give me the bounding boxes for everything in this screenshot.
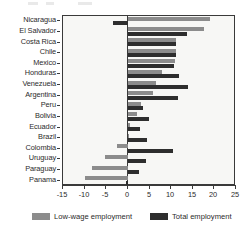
x-axis-tick (149, 185, 150, 189)
category-label: Honduras (25, 69, 56, 77)
bar-total-panama (126, 181, 128, 185)
bar-low-wage-ecuador (128, 123, 131, 127)
bar-total-colombia (128, 149, 173, 153)
bar-total-chile (128, 53, 176, 57)
y-axis-tick (57, 95, 60, 96)
y-axis-tick (57, 52, 60, 53)
y-axis-tick (57, 127, 60, 128)
category-label: Argentina (25, 91, 56, 99)
scan-artifact (0, 0, 251, 9)
category-label: Ecuador (29, 123, 56, 131)
x-axis-tick-label: 20 (209, 190, 217, 199)
bar-low-wage-bolivia (128, 112, 137, 116)
x-axis-tick-label: 0 (125, 190, 129, 199)
chart-legend: Low-wage employmentTotal employment (0, 210, 251, 224)
category-label: Paraguay (25, 165, 56, 173)
category-label: El Salvador (19, 27, 56, 35)
bar-low-wage-argentina (128, 91, 154, 95)
bar-total-mexico (128, 64, 174, 68)
bar-low-wage-venezuela (128, 81, 156, 85)
y-axis-tick (57, 116, 60, 117)
y-axis-tick (57, 105, 60, 106)
bar-low-wage-mexico (128, 59, 175, 63)
bar-low-wage-costa-rica (128, 38, 176, 42)
bar-total-costa-rica (128, 42, 176, 46)
category-label: Mexico (33, 59, 56, 67)
category-label: Peru (41, 101, 56, 109)
x-axis-tick (105, 185, 106, 189)
x-axis-tick (84, 185, 85, 189)
bar-total-venezuela (128, 85, 188, 89)
category-label: Nicaragua (23, 16, 56, 24)
x-axis-tick-label: -15 (57, 190, 68, 199)
legend-label: Total employment (172, 212, 232, 221)
x-axis-tick-label: 5 (147, 190, 151, 199)
x-axis-tick-label: -5 (102, 190, 109, 199)
bar-low-wage-paraguay (92, 166, 128, 170)
bar-low-wage-colombia (117, 144, 127, 148)
y-axis-tick (57, 158, 60, 159)
y-axis-tick (57, 137, 60, 138)
bar-total-bolivia (128, 117, 149, 121)
x-axis-tick-label: 10 (166, 190, 174, 199)
category-label: Uruguay (29, 154, 56, 162)
category-label: Panama (29, 176, 56, 184)
x-axis-tick-label: -10 (79, 190, 90, 199)
bar-low-wage-peru (128, 102, 141, 106)
x-axis-tick (235, 185, 236, 189)
legend-swatch-icon (32, 213, 50, 220)
y-axis-tick (57, 63, 60, 64)
y-axis-tick (57, 84, 60, 85)
bar-total-brazil (128, 138, 147, 142)
bar-low-wage-uruguay (105, 155, 128, 159)
x-axis-tick (127, 185, 128, 189)
x-axis-tick-label: 25 (231, 190, 239, 199)
category-label: Chile (40, 48, 56, 56)
category-label: Costa Rica (21, 38, 56, 46)
y-axis-tick (57, 31, 60, 32)
category-label: Brazil (38, 133, 56, 141)
bar-low-wage-nicaragua (128, 17, 211, 21)
bar-total-uruguay (128, 159, 147, 163)
y-axis-tick (57, 180, 60, 181)
bar-low-wage-panama (85, 176, 128, 180)
legend-item-total[interactable]: Total employment (150, 212, 232, 221)
bar-total-ecuador (128, 127, 141, 131)
bar-total-nicaragua (113, 21, 128, 25)
y-axis-tick (57, 20, 60, 21)
plot-area (62, 15, 235, 185)
legend-swatch-icon (150, 213, 168, 220)
bar-total-paraguay (128, 170, 139, 174)
y-axis-tick (57, 148, 60, 149)
category-axis: NicaraguaEl SalvadorCosta RicaChileMexic… (0, 15, 60, 185)
category-label: Bolivia (35, 112, 56, 120)
y-axis-tick (57, 73, 60, 74)
x-axis-tick-label: 15 (188, 190, 196, 199)
category-label: Colombia (26, 144, 56, 152)
bar-low-wage-honduras (128, 70, 162, 74)
category-label: Venezuela (22, 80, 56, 88)
bar-total-honduras (128, 74, 179, 78)
legend-item-low-wage[interactable]: Low-wage employment (32, 212, 132, 221)
x-axis-tick (62, 185, 63, 189)
bar-total-peru (128, 106, 144, 110)
x-axis-tick (170, 185, 171, 189)
x-axis-tick (192, 185, 193, 189)
bar-total-el-salvador (128, 32, 187, 36)
y-axis-tick (57, 42, 60, 43)
bar-low-wage-brazil (128, 134, 129, 138)
bar-chart: NicaraguaEl SalvadorCosta RicaChileMexic… (0, 0, 251, 231)
bar-low-wage-chile (128, 49, 176, 53)
legend-label: Low-wage employment (54, 212, 132, 221)
bar-low-wage-el-salvador (128, 27, 204, 31)
y-axis-tick (57, 169, 60, 170)
bar-total-argentina (128, 96, 178, 100)
x-axis-tick (213, 185, 214, 189)
